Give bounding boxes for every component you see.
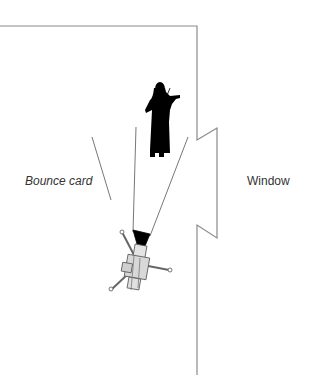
- window-label: Window: [247, 174, 290, 188]
- camera-on-tripod-icon: [109, 230, 172, 291]
- bounce-card-line: [92, 137, 111, 200]
- wall-outline: [0, 26, 217, 375]
- bounce-card-label: Bounce card: [25, 174, 92, 188]
- camera-view-line-left: [133, 127, 136, 232]
- lighting-diagram: [0, 0, 316, 376]
- violinist-silhouette-icon: [145, 82, 180, 157]
